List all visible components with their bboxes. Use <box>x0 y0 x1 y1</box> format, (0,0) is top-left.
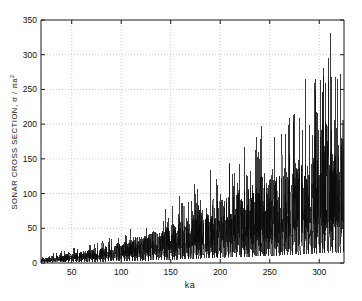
x-tick-label: 100 <box>114 267 128 277</box>
y-axis-label: SONAR CROSS SECTION, σ / πa2 <box>9 74 19 209</box>
y-tick-label: 350 <box>23 15 37 25</box>
x-tick-label: 150 <box>164 267 178 277</box>
y-tick-label: 100 <box>23 189 37 199</box>
y-tick-label: 0 <box>32 258 37 268</box>
figure-canvas: 05010015020025030035050100150200250300 k… <box>0 0 362 301</box>
y-tick-label: 250 <box>23 84 37 94</box>
x-tick-label: 200 <box>213 267 227 277</box>
x-tick-label: 250 <box>263 267 277 277</box>
sonar-cross-section-chart: 05010015020025030035050100150200250300 k… <box>0 0 362 301</box>
y-tick-label: 200 <box>23 119 37 129</box>
y-tick-label: 50 <box>28 223 38 233</box>
y-tick-label: 300 <box>23 50 37 60</box>
x-tick-label: 300 <box>312 267 326 277</box>
y-axis-label-group: SONAR CROSS SECTION, σ / πa2 <box>9 74 19 209</box>
x-tick-label: 50 <box>67 267 77 277</box>
y-tick-label: 150 <box>23 154 37 164</box>
x-axis-label: ka <box>185 280 195 290</box>
